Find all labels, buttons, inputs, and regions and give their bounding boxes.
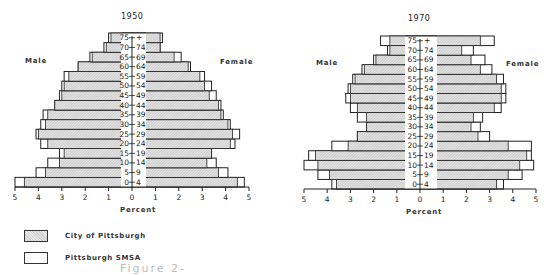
x-tick-label: 4 — [510, 195, 515, 204]
age-label-end: 24 — [136, 139, 146, 148]
age-label-start: 45 — [407, 94, 417, 103]
bar-city-male — [45, 168, 132, 178]
x-tick-label: 2 — [83, 193, 88, 202]
age-label-start: 70 — [119, 43, 129, 52]
age-label-start: 35 — [119, 110, 129, 119]
age-label-start: 60 — [119, 62, 129, 71]
male-label-1950: Male — [25, 57, 47, 65]
female-label-1950: Female — [220, 58, 253, 66]
age-label-start: 25 — [119, 130, 129, 139]
bar-city-male — [38, 129, 132, 139]
x-tick-label: 2 — [464, 195, 469, 204]
x-tick-label: 5 — [13, 193, 18, 202]
chart-title-1970: 1970 — [408, 14, 430, 23]
age-label-start: 0 — [412, 180, 417, 189]
age-label-end: 49 — [424, 94, 434, 103]
x-tick-label: 4 — [36, 193, 41, 202]
age-label-end: 69 — [136, 53, 146, 62]
age-label-end: 64 — [424, 65, 434, 74]
x-tick-label: 4 — [325, 195, 330, 204]
age-label-start: 30 — [119, 120, 129, 129]
female-label-1970: Female — [506, 60, 539, 68]
age-label-start: 15 — [119, 149, 129, 158]
bar-city-female — [132, 120, 228, 130]
age-label-end: 59 — [136, 72, 146, 81]
male-label-1970: Male — [316, 59, 338, 67]
hatched-swatch-icon — [24, 230, 48, 242]
age-label-end: 54 — [136, 81, 146, 90]
x-tick-label: 2 — [371, 195, 376, 204]
x-tick-label: 1 — [153, 193, 158, 202]
age-label-start: 30 — [407, 122, 417, 131]
age-label-end: 39 — [136, 110, 146, 119]
bar-city-female — [132, 177, 237, 187]
age-label-start: 55 — [119, 72, 129, 81]
age-label-end: 49 — [136, 91, 146, 100]
x-tick-label: 1 — [441, 195, 446, 204]
age-label-start: 70 — [407, 46, 417, 55]
age-label-end: 39 — [424, 113, 434, 122]
age-label-end: 69 — [424, 55, 434, 64]
bar-city-male — [24, 177, 132, 187]
x-tick-label: 0 — [130, 193, 135, 202]
age-label-start: 60 — [407, 65, 417, 74]
x-tick-label: 4 — [223, 193, 228, 202]
age-label-start: 75 — [119, 33, 129, 42]
legend-label-smsa: Pittsburgh SMSA — [65, 254, 141, 262]
age-label-start: 45 — [119, 91, 129, 100]
x-tick-label: 1 — [394, 195, 399, 204]
x-tick-label: 3 — [348, 195, 353, 204]
age-label-start: 20 — [119, 139, 129, 148]
bar-city-female — [132, 139, 230, 149]
age-label-end: + — [424, 36, 430, 45]
age-label-start: 20 — [407, 141, 417, 150]
x-axis-title-1950: Percent — [120, 206, 156, 214]
x-tick-label: 3 — [487, 195, 492, 204]
age-label-start: 0 — [124, 178, 129, 187]
age-label-end: 4 — [136, 178, 141, 187]
age-label-end: 44 — [424, 103, 434, 112]
age-label-start: 5 — [124, 168, 129, 177]
age-label-end: 59 — [424, 75, 434, 84]
age-label-start: 50 — [407, 84, 417, 93]
age-label-start: 25 — [407, 132, 417, 141]
x-tick-label: 3 — [200, 193, 205, 202]
x-tick-label: 1 — [106, 193, 111, 202]
age-label-end: 4 — [424, 180, 429, 189]
age-label-start: 65 — [119, 53, 129, 62]
age-label-end: + — [136, 33, 142, 42]
bar-city-female — [132, 129, 233, 139]
legend-item-city: City of Pittsburgh — [24, 225, 146, 247]
age-label-start: 10 — [407, 161, 417, 170]
age-label-start: 15 — [407, 151, 417, 160]
age-label-end: 29 — [136, 130, 146, 139]
age-label-end: 44 — [136, 101, 146, 110]
age-label-end: 14 — [136, 158, 146, 167]
age-label-start: 65 — [407, 55, 417, 64]
x-tick-label: 5 — [247, 193, 252, 202]
age-label-end: 64 — [136, 62, 146, 71]
age-label-start: 10 — [119, 158, 129, 167]
bar-city-male — [318, 160, 420, 170]
x-tick-label: 5 — [302, 195, 307, 204]
age-label-start: 75 — [407, 36, 417, 45]
age-label-start: 50 — [119, 81, 129, 90]
age-label-end: 34 — [136, 120, 146, 129]
x-tick-label: 5 — [534, 195, 539, 204]
age-label-end: 34 — [424, 122, 434, 131]
age-label-end: 24 — [424, 141, 434, 150]
age-label-end: 9 — [136, 168, 141, 177]
bar-city-male — [316, 151, 420, 161]
age-label-end: 14 — [424, 161, 434, 170]
figure-caption: Figure 2- — [120, 262, 186, 275]
age-label-end: 54 — [424, 84, 434, 93]
x-tick-label: 0 — [418, 195, 423, 204]
age-label-start: 35 — [407, 113, 417, 122]
x-axis-title-1970: Percent — [406, 208, 442, 216]
legend-label-city: City of Pittsburgh — [65, 232, 146, 240]
age-label-start: 5 — [412, 170, 417, 179]
pyramid-1950: 0459101415192024252930343539404445495054… — [13, 33, 252, 202]
chart-title-1950: 1950 — [121, 12, 143, 21]
x-tick-label: 3 — [59, 193, 64, 202]
age-label-end: 19 — [136, 149, 146, 158]
